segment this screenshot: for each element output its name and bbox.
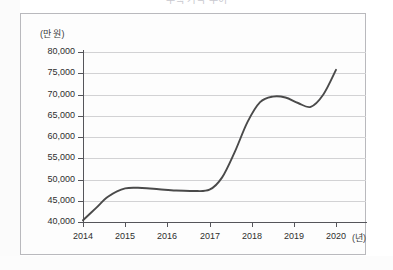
x-axis-tick-label: 2018 — [235, 231, 269, 241]
x-axis-tick-label: 2017 — [193, 231, 227, 241]
y-axis-tick-label: 75,000 — [33, 67, 75, 77]
gridline — [83, 158, 366, 159]
y-axis-tick-label: 65,000 — [33, 110, 75, 120]
y-axis-tick-label: 45,000 — [33, 195, 75, 205]
gridline — [83, 180, 366, 181]
x-axis-unit-label: (년) — [352, 231, 366, 244]
x-axis-tick-label: 2016 — [150, 231, 184, 241]
y-axis-tick-label: 70,000 — [33, 89, 75, 99]
x-axis-tick-label: 2020 — [319, 231, 353, 241]
x-axis-line — [83, 222, 367, 223]
x-axis-tick-label: 2014 — [66, 231, 100, 241]
y-axis-tick-label: 60,000 — [33, 131, 75, 141]
y-axis-tick-label: 50,000 — [33, 174, 75, 184]
gridline — [83, 201, 366, 202]
gridline — [83, 95, 366, 96]
y-axis-tick-label: 55,000 — [33, 152, 75, 162]
scan-edge-left — [0, 0, 20, 270]
y-axis-tick-label: 40,000 — [33, 216, 75, 226]
y-axis-labels: 40,00045,00050,00055,00060,00065,00070,0… — [30, 0, 75, 270]
gridline — [83, 116, 366, 117]
gridline — [83, 137, 366, 138]
x-axis-tick-label: 2019 — [277, 231, 311, 241]
y-axis-line — [83, 50, 84, 224]
y-axis-tick-label: 80,000 — [33, 46, 75, 56]
gridline — [83, 52, 366, 53]
x-axis-tick-label: 2015 — [108, 231, 142, 241]
gridline — [83, 73, 366, 74]
